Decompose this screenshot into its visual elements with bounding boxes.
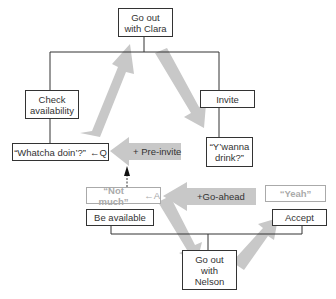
question-marker: ←Q: [90, 147, 107, 158]
not-much-text: “Not much”: [87, 185, 140, 207]
node-check-availability: Check availability: [25, 90, 79, 119]
node-whatcha-doin: “Whatcha doin’?” ←Q: [12, 143, 109, 161]
node-accept: Accept: [272, 209, 327, 226]
pre-invite-label: + Pre-invite: [133, 146, 181, 157]
whatcha-doin-text: “Whatcha doin’?”: [14, 147, 86, 158]
node-be-available: Be available: [86, 209, 154, 226]
node-invite: Invite: [200, 90, 255, 108]
arrow-up-to-clara: [80, 44, 134, 137]
arrow-down-to-invite: [155, 48, 206, 128]
node-go-out-with-nelson: Go out with Nelson: [182, 250, 237, 290]
go-ahead-label: +Go-ahead: [197, 191, 245, 202]
answer-marker: ←A: [144, 190, 160, 201]
node-ywanna-drink: “Y’wanna drink?”: [206, 137, 253, 167]
diagram-canvas: Go out with Clara Check availability Inv…: [0, 0, 336, 299]
node-not-much: “Not much” ←A: [86, 187, 161, 204]
node-go-out-with-clara: Go out with Clara: [118, 8, 173, 37]
node-yeah: “Yeah”: [265, 185, 326, 202]
